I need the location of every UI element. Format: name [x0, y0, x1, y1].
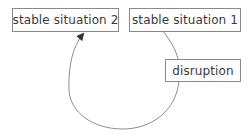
node-stable-situation-2: stable situation 2 — [12, 8, 119, 32]
node-label: disruption — [172, 64, 233, 78]
edge-stable1-to-disruption — [163, 31, 178, 59]
node-label: stable situation 2 — [13, 13, 119, 27]
node-stable-situation-1: stable situation 1 — [129, 8, 241, 32]
edge-disruption-to-stable2 — [69, 34, 179, 129]
node-label: stable situation 1 — [132, 13, 238, 27]
node-disruption: disruption — [165, 59, 241, 82]
